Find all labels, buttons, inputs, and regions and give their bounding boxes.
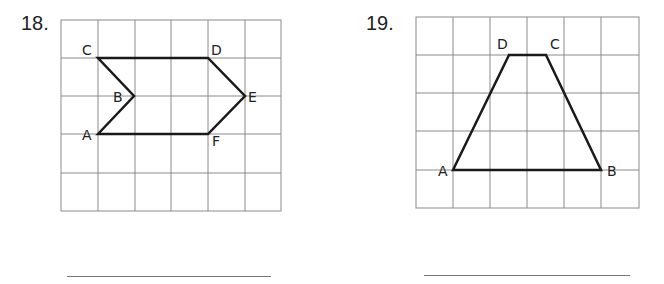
- grid-18: [61, 20, 281, 211]
- vertex-label-c-19: C: [550, 36, 560, 52]
- answer-line-19[interactable]: [424, 275, 630, 276]
- vertex-label-c-18: C: [82, 42, 92, 58]
- vertex-label-e-18: E: [248, 89, 257, 105]
- vertex-label-b-19: B: [607, 163, 617, 179]
- grid-19: [416, 17, 639, 208]
- answer-line-18[interactable]: [67, 276, 271, 277]
- vertex-label-d-19: D: [497, 36, 508, 52]
- vertex-label-b-18: B: [113, 89, 123, 105]
- vertex-label-a-18: A: [82, 127, 92, 143]
- vertex-label-f-18: F: [212, 133, 220, 149]
- figures: C D B E A F D C A B: [0, 0, 664, 284]
- vertex-label-d-18: D: [211, 42, 222, 58]
- vertex-label-a-19: A: [438, 163, 448, 179]
